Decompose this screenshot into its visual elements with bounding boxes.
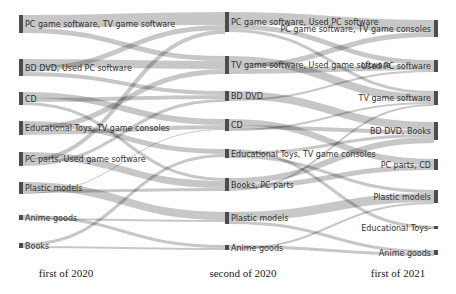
sankey-node-label: Books — [25, 242, 49, 251]
sankey-node-label: TV game software — [358, 94, 432, 103]
sankey-node-label: Anime goods — [379, 249, 431, 258]
sankey-node-label: PC parts, Used game software — [25, 155, 146, 164]
sankey-node[interactable] — [19, 215, 23, 220]
sankey-node[interactable] — [19, 59, 23, 76]
sankey-node-label: Books, PC parts — [231, 181, 294, 190]
sankey-node-label: Educational Toys, TV game consoles — [231, 150, 376, 159]
sankey-node-label: Anime goods — [231, 244, 283, 253]
sankey-node[interactable] — [19, 15, 23, 33]
sankey-node-label: Used PC software — [361, 62, 431, 71]
sankey-node[interactable] — [434, 190, 438, 203]
sankey-node-label: Plastic models — [231, 214, 289, 223]
stage-axis-label-stage3: first of 2021 — [371, 267, 425, 279]
sankey-node[interactable] — [225, 149, 229, 158]
sankey-node[interactable] — [225, 91, 229, 101]
sankey-node[interactable] — [225, 178, 229, 191]
sankey-link — [23, 247, 225, 249]
sankey-diagram: PC game software, TV game softwareBD DVD… — [0, 0, 456, 294]
sankey-node-label: BD DVD, Books — [370, 127, 431, 136]
sankey-node-label: Anime goods — [25, 214, 77, 223]
stage-axis-label-stage2: second of 2020 — [209, 267, 277, 279]
stage-axis-label-stage1: first of 2020 — [39, 267, 94, 279]
sankey-node[interactable] — [225, 119, 229, 131]
sankey-node[interactable] — [434, 20, 438, 37]
stage-axis-labels-layer: first of 2020second of 2020first of 2021 — [39, 267, 425, 279]
sankey-node-label: CD — [25, 95, 37, 104]
sankey-node[interactable] — [19, 152, 23, 166]
sankey-node[interactable] — [434, 60, 438, 72]
sankey-node[interactable] — [225, 12, 229, 32]
sankey-node-label: Educational Toys- — [361, 224, 431, 233]
sankey-node-label: BD DVD, Used PC software — [25, 64, 132, 73]
sankey-node-label: BD DVD — [231, 92, 263, 101]
sankey-node[interactable] — [225, 212, 229, 224]
sankey-node[interactable] — [225, 56, 229, 74]
sankey-node[interactable] — [434, 250, 438, 255]
sankey-node[interactable] — [434, 122, 438, 140]
sankey-node[interactable] — [434, 91, 438, 105]
sankey-node-label: Plastic models — [374, 193, 432, 202]
sankey-node[interactable] — [434, 159, 438, 170]
sankey-node-label: PC parts, CD — [381, 161, 431, 170]
sankey-node[interactable] — [19, 243, 23, 248]
sankey-node-label: Educational Toys, TV game consoles — [25, 124, 170, 133]
sankey-node[interactable] — [434, 226, 438, 229]
sankey-canvas: PC game software, TV game softwareBD DVD… — [0, 0, 456, 294]
sankey-node[interactable] — [19, 92, 23, 105]
sankey-node-label: CD — [231, 121, 243, 130]
sankey-link — [23, 74, 225, 93]
sankey-node-label: Plastic models — [25, 184, 83, 193]
sankey-node[interactable] — [225, 245, 229, 250]
sankey-node[interactable] — [19, 182, 23, 194]
sankey-node-label: PC game software, TV game software — [25, 20, 175, 29]
sankey-node[interactable] — [19, 121, 23, 135]
sankey-node-label: PC game software, TV game consoles — [280, 25, 431, 34]
